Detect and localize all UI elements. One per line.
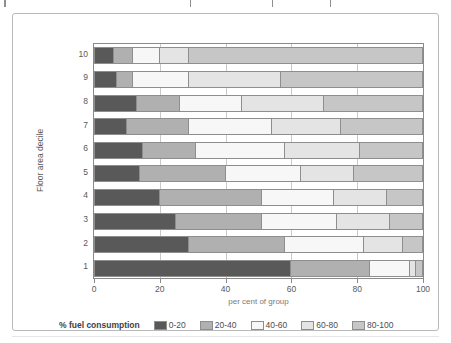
bar-segment [133,71,189,88]
x-tick-mark-60 [291,279,292,283]
bar-segment [189,118,271,135]
bar-segment [140,165,226,182]
bar-segment [94,213,176,230]
caption-fragment-3 [272,0,273,7]
bar-segment [262,213,338,230]
bar-segment [117,71,133,88]
bar-segment [360,142,423,159]
bar-segment [94,71,117,88]
bar-segment [94,260,291,277]
legend-item[interactable]: 20-40 [200,320,237,330]
y-tick-label-1: 1 [67,262,88,271]
legend-label: 60-80 [316,320,338,330]
caption-fragment-1 [4,0,6,7]
bar-segment [354,165,423,182]
bar-segment [189,71,281,88]
caption-fragment-2 [190,0,191,7]
bar-segment [387,189,423,206]
stacked-bars [94,44,423,278]
bar-segment [94,95,137,112]
x-tick-mark-40 [226,279,227,283]
legend-label: 80-100 [367,320,393,330]
bar-segment [94,236,189,253]
legend-label: 0-20 [169,320,186,330]
bar-segment [281,71,422,88]
legend-swatch [352,321,365,330]
bar-segment [189,47,423,64]
bar-segment [137,95,180,112]
x-tick-mark-100 [423,279,424,283]
bar-segment [94,142,143,159]
bar-segment [160,47,190,64]
y-tick-label-6: 6 [67,144,88,153]
bar-row [94,236,423,253]
bar-segment [291,260,370,277]
x-tick-mark-80 [357,279,358,283]
bar-segment [196,142,285,159]
x-tick-label-20: 20 [145,284,175,294]
x-tick-label-60: 60 [276,284,306,294]
bar-segment [189,236,284,253]
bar-segment [94,47,114,64]
bar-segment [226,165,302,182]
bar-segment [285,142,361,159]
bottom-rule [12,336,439,337]
bar-segment [160,189,262,206]
legend-label: 40-60 [266,320,288,330]
bar-segment [285,236,364,253]
bar-segment [390,213,423,230]
plot-area [93,43,424,279]
bar-segment [337,213,390,230]
y-tick-label-9: 9 [67,73,88,82]
bar-row [94,189,423,206]
bar-segment [370,260,409,277]
legend-label: 20-40 [215,320,237,330]
bar-segment [364,236,403,253]
bar-row [94,142,423,159]
legend-swatch [200,321,213,330]
bar-segment [262,189,334,206]
figure-frame: Floor area decile 10987654321 0204060801… [12,13,439,331]
x-tick-label-100: 100 [408,284,438,294]
legend-swatch [251,321,264,330]
bar-row [94,71,423,88]
x-tick-mark-0 [94,279,95,283]
legend-swatch [301,321,314,330]
bar-segment [403,236,423,253]
x-axis-title: per cent of group [93,297,424,306]
bar-segment [341,118,423,135]
bar-row [94,165,423,182]
x-tick-label-0: 0 [79,284,109,294]
legend-item[interactable]: 40-60 [251,320,288,330]
bar-row [94,95,423,112]
bar-segment [143,142,196,159]
x-tick-label-40: 40 [211,284,241,294]
x-tick-label-80: 80 [342,284,372,294]
bar-segment [114,47,134,64]
bar-segment [94,165,140,182]
bar-segment [180,95,243,112]
y-tick-label-2: 2 [67,239,88,248]
y-axis-title: Floor area decile [35,129,45,192]
legend-item[interactable]: 0-20 [154,320,186,330]
bar-segment [334,189,387,206]
legend: % fuel consumption 0-2020-4040-6060-8080… [59,317,407,333]
bar-segment [416,260,423,277]
bar-row [94,118,423,135]
bar-row [94,260,423,277]
legend-item[interactable]: 60-80 [301,320,338,330]
y-tick-label-10: 10 [67,50,88,59]
bar-segment [94,118,127,135]
legend-title: % fuel consumption [59,320,140,330]
bar-segment [301,165,354,182]
y-tick-label-3: 3 [67,215,88,224]
bar-segment [94,189,160,206]
x-tick-mark-20 [160,279,161,283]
bar-segment [176,213,262,230]
legend-item[interactable]: 80-100 [352,320,393,330]
bar-segment [324,95,423,112]
y-tick-label-8: 8 [67,97,88,106]
caption-fragment-4 [330,0,331,7]
bar-segment [242,95,324,112]
bar-segment [127,118,190,135]
